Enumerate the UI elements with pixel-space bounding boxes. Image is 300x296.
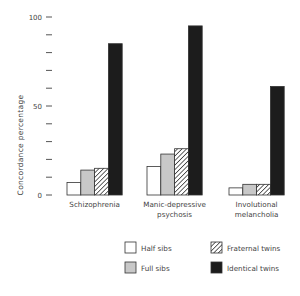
legend-swatch [125,262,136,273]
bar-group [67,44,122,195]
bar-group [147,26,202,195]
legend: Half sibsFull sibsFraternal twinsIdentic… [125,242,281,273]
legend-item: Fraternal twins [211,242,281,253]
bar [81,170,95,195]
bar [67,183,81,195]
bar [175,149,189,195]
y-tick-label: 100 [29,14,42,22]
y-axis-label: Concordance percentage [16,95,25,196]
bar [161,154,175,195]
bar [108,44,122,195]
bar [229,188,243,195]
category-label: Involutional [236,200,278,209]
category-label: psychosis [157,210,192,219]
bar-group [229,86,284,195]
concordance-bar-chart: 050100 Concordance percentage Schizophre… [0,0,300,296]
legend-label: Half sibs [141,244,172,253]
category-labels: SchizophreniaManic-depressivepsychosisIn… [69,200,278,219]
bar [95,168,109,195]
legend-item: Half sibs [125,242,172,253]
legend-label: Full sibs [141,264,170,273]
y-tick-label: 50 [33,103,42,111]
legend-label: Fraternal twins [227,244,281,253]
bar [243,184,257,195]
bars-area [67,26,284,195]
legend-swatch [211,242,222,253]
legend-swatch [211,262,222,273]
bar [188,26,202,195]
category-label: melancholia [235,210,279,219]
y-tick-label: 0 [38,192,42,200]
legend-item: Full sibs [125,262,170,273]
category-label: Manic-depressive [143,200,206,209]
y-axis: 050100 [29,14,52,200]
bar [147,167,161,195]
category-label: Schizophrenia [69,200,120,209]
bar [270,86,284,195]
legend-swatch [125,242,136,253]
bar [257,184,271,195]
legend-label: Identical twins [227,264,279,273]
legend-item: Identical twins [211,262,279,273]
